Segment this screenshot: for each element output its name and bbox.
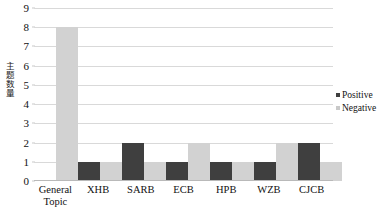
y-axis-tick-label: 0: [24, 175, 30, 187]
bar-positive[interactable]: [210, 162, 232, 181]
x-axis-tick-label: SARB: [119, 182, 162, 215]
bar-group: [166, 8, 210, 181]
bar-group: [34, 8, 78, 181]
y-axis-tick-label: 5: [24, 79, 30, 91]
bar-group: [78, 8, 122, 181]
y-axis-tick-label: 9: [24, 2, 30, 14]
legend-label: Positive: [342, 90, 373, 100]
legend-item[interactable]: Negative: [336, 102, 388, 114]
bar-negative[interactable]: [144, 162, 166, 181]
bar-negative[interactable]: [276, 143, 298, 181]
y-axis-title: 主题数量: [1, 62, 13, 98]
chart-legend: PositiveNegative: [336, 89, 388, 115]
y-axis-tick-label: 6: [24, 60, 30, 72]
y-axis-tick-label: 7: [24, 40, 30, 52]
bar-negative[interactable]: [100, 162, 122, 181]
y-axis-tick-label: 8: [24, 21, 30, 33]
bar-positive[interactable]: [254, 162, 276, 181]
y-axis-tick-label: 2: [24, 137, 30, 149]
bar-group: [122, 8, 166, 181]
bar-positive[interactable]: [78, 162, 100, 181]
bar-negative[interactable]: [56, 27, 78, 181]
x-axis-tick-label: XHB: [77, 182, 120, 215]
bar-negative[interactable]: [232, 162, 254, 181]
y-axis-tick-label: 1: [24, 156, 30, 168]
plot-area: [34, 8, 333, 181]
y-axis-tick-labels: 0123456789: [14, 0, 32, 181]
x-axis-line: [34, 180, 333, 181]
bar-group: [210, 8, 254, 181]
bar-negative[interactable]: [188, 143, 210, 181]
bar-positive[interactable]: [166, 162, 188, 181]
x-axis-tick-label: General Topic: [34, 182, 77, 215]
bar-groups: [34, 8, 333, 181]
legend-label: Negative: [342, 103, 376, 113]
legend-swatch-icon: [336, 106, 340, 110]
x-axis-tick-label: WZB: [248, 182, 291, 215]
x-axis-tick-label: ECB: [162, 182, 205, 215]
x-axis-tick-label: CJCB: [290, 182, 333, 215]
bar-chart: 主题数量 0123456789 General TopicXHBSARBECBH…: [0, 0, 388, 215]
bar-negative[interactable]: [320, 162, 342, 181]
bar-positive[interactable]: [122, 143, 144, 181]
bar-positive[interactable]: [298, 143, 320, 181]
y-axis-tick-label: 3: [24, 117, 30, 129]
x-axis-tick-label: HPB: [205, 182, 248, 215]
x-axis-tick-labels: General TopicXHBSARBECBHPBWZBCJCB: [34, 182, 333, 215]
legend-swatch-icon: [336, 93, 340, 97]
bar-group: [254, 8, 298, 181]
y-axis-tick-label: 4: [24, 98, 30, 110]
legend-item[interactable]: Positive: [336, 89, 388, 101]
